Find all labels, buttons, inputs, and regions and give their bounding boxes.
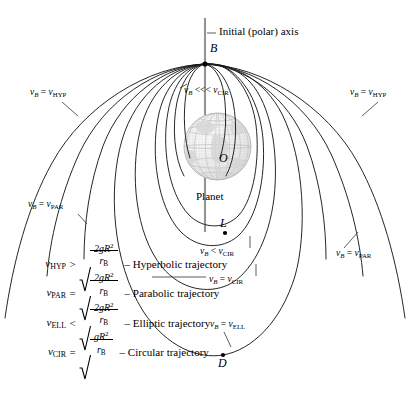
label-hyp-left: vB = vHYP: [30, 88, 66, 98]
eq3-relation: =: [66, 346, 79, 358]
eq1-lhs: vPAR: [24, 286, 66, 300]
lbl-hypR-subw: HYP: [373, 91, 387, 98]
eq1-numerator: 2gR2: [93, 271, 115, 284]
leader-hyp-right: [362, 102, 378, 116]
label-hyp-right: vB = vHYP: [350, 88, 386, 98]
lbl-hypR-subv: B: [354, 91, 358, 98]
lbl-hypR-rel: =: [361, 87, 366, 97]
eq1-relation: =: [66, 287, 79, 299]
lbl-hypL-rel: =: [41, 87, 46, 97]
lbl-parL-subw: PAR: [51, 203, 64, 210]
eq2-lhs: vELL: [24, 316, 66, 330]
lbl-hypL-subw: HYP: [53, 91, 67, 98]
lbl-tiny-subv: B: [188, 89, 192, 96]
eq1-description: – Parabolic trajectory: [125, 287, 220, 299]
lbl-hypL-subv: B: [34, 91, 38, 98]
eq2-numerator: 2gR2: [93, 301, 115, 314]
leader-hyp-left: [62, 102, 78, 116]
planet-globe: [184, 111, 251, 182]
label-par-right: vB = vPAR: [336, 249, 371, 259]
lbl-parL-rel: =: [39, 199, 44, 209]
eq3-denominator: rB: [93, 344, 110, 357]
eq1-denominator: rB: [93, 285, 115, 298]
eq3-numerator: gR2: [93, 330, 110, 343]
eq2-relation: <: [66, 317, 79, 329]
eq0-description: – Hyperbolic trajectory: [125, 258, 228, 270]
lbl-parR-rel: =: [347, 248, 352, 258]
lbl-eqc-subw: CIR: [232, 278, 243, 285]
equation-row: vCIR = gR2 rB – Circular trajectory: [24, 338, 227, 368]
eq3-description: – Circular trajectory: [120, 346, 209, 358]
lbl-tiny-rel: <<<: [195, 85, 211, 95]
eq0-lhs: vHYP: [24, 257, 66, 271]
label-par-left: vB = vPAR: [28, 200, 63, 210]
figure-canvas: Initial (polar) axis B O L D Planet vB =…: [0, 0, 413, 407]
eq0-numerator: 2gR2: [93, 242, 115, 255]
point-L-dot: [223, 231, 227, 235]
planet-label: Planet: [196, 191, 224, 202]
lbl-parL-subv: B: [32, 203, 36, 210]
eq2-denominator: rB: [93, 314, 115, 327]
point-label-L: L: [220, 217, 227, 229]
leader-par-right: [344, 232, 358, 248]
point-B-dot: [202, 61, 207, 66]
eq2-description: – Elliptic trajectory: [125, 317, 211, 329]
eq3-lhs: vCIR: [24, 345, 66, 359]
equation-row: vPAR = 2gR2 rB – Parabolic trajectory: [24, 279, 227, 309]
lbl-parR-subw: PAR: [359, 252, 372, 259]
eq3-fraction: gR2 rB: [90, 339, 113, 366]
equation-legend: vHYP > 2gR2 rB – Hyperbolic trajectory v…: [24, 249, 227, 367]
equation-row: vELL < 2gR2 rB – Elliptic trajectory: [24, 308, 227, 338]
axis-label: Initial (polar) axis: [219, 26, 298, 37]
lbl-parR-subv: B: [340, 252, 344, 259]
equation-row: vHYP > 2gR2 rB – Hyperbolic trajectory: [24, 249, 227, 279]
lbl-eqe-subw: ELL: [233, 323, 246, 330]
eq0-relation: >: [66, 258, 79, 270]
point-label-B: B: [210, 42, 217, 54]
lbl-tiny-subw: CIR: [217, 89, 228, 96]
point-label-O: O: [219, 152, 228, 164]
label-tiny-velocity: vB <<< vCIR: [184, 86, 229, 96]
eq0-denominator: rB: [93, 255, 115, 268]
